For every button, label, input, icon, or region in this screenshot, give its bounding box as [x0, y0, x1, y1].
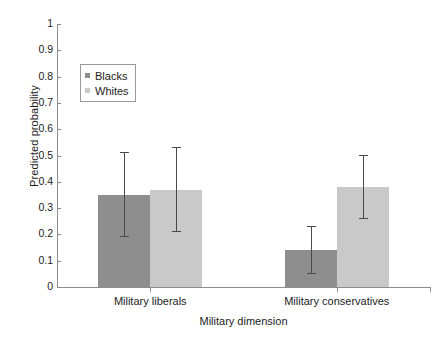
y-axis-tick: 1 — [0, 24, 62, 25]
y-axis-tick-mark — [57, 287, 61, 288]
legend-swatch-icon — [85, 73, 90, 78]
error-bar — [363, 156, 364, 219]
y-axis-tick-label: 0 — [47, 280, 53, 292]
error-bar-cap — [172, 231, 181, 232]
legend-swatch-icon — [85, 88, 90, 93]
bar-chart-figure: Predicted probability Military dimension… — [0, 0, 438, 340]
y-axis-tick: 0.1 — [0, 261, 62, 262]
y-axis-tick-label: 0.3 — [38, 201, 53, 213]
error-bar — [311, 227, 312, 274]
error-bar-cap — [359, 218, 368, 219]
error-bar-cap — [172, 147, 181, 148]
error-bar — [124, 153, 125, 237]
x-axis-tick-mark — [430, 288, 431, 292]
x-axis-tick-label: Military liberals — [70, 295, 230, 307]
error-bar-cap — [120, 152, 129, 153]
y-axis-tick: 0 — [0, 287, 62, 288]
y-axis-tick-label: 0.6 — [38, 122, 53, 134]
y-axis-tick-label: 0.2 — [38, 227, 53, 239]
y-axis-tick: 0.3 — [0, 208, 62, 209]
y-axis-tick: 0.2 — [0, 234, 62, 235]
error-bar-cap — [307, 226, 316, 227]
legend-item: Blacks — [85, 68, 129, 83]
x-axis-tick-mark — [337, 288, 338, 292]
x-axis-tick-label: Military conservatives — [257, 295, 417, 307]
error-bar-cap — [359, 155, 368, 156]
error-bar-cap — [120, 236, 129, 237]
legend-item: Whites — [85, 83, 129, 98]
y-axis-tick-label: 0.5 — [38, 149, 53, 161]
y-axis-tick-label: 0.4 — [38, 175, 53, 187]
y-axis-tick-label: 0.8 — [38, 70, 53, 82]
x-axis-line — [57, 287, 431, 288]
y-axis-tick-label: 0.9 — [38, 43, 53, 55]
legend-item-label: Whites — [95, 85, 129, 97]
y-axis-tick-label: 1 — [47, 17, 53, 29]
error-bar-cap — [307, 273, 316, 274]
y-axis-tick: 0.7 — [0, 103, 62, 104]
y-axis-tick: 0.8 — [0, 77, 62, 78]
legend-item-label: Blacks — [95, 70, 127, 82]
y-axis-tick: 0.4 — [0, 182, 62, 183]
y-axis-tick: 0.5 — [0, 156, 62, 157]
y-axis-tick: 0.9 — [0, 50, 62, 51]
y-axis-tick: 0.6 — [0, 129, 62, 130]
y-axis-tick-label: 0.7 — [38, 96, 53, 108]
chart-legend: BlacksWhites — [80, 64, 136, 102]
x-axis-title: Military dimension — [57, 315, 430, 327]
y-axis-tick-label: 0.1 — [38, 254, 53, 266]
x-axis-tick-mark — [150, 288, 151, 292]
error-bar — [176, 148, 177, 232]
